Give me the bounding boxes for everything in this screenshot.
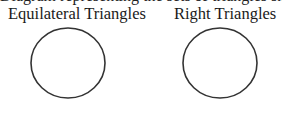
- set-circle-right: [183, 28, 257, 98]
- venn-diagram: [0, 0, 282, 113]
- set-circle-equilateral: [31, 28, 105, 98]
